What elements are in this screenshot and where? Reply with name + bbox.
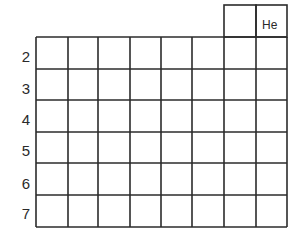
top-cell-empty [224, 5, 256, 37]
period-label-3: 3 [16, 81, 30, 96]
helium-symbol: He [262, 19, 277, 31]
period-label-7: 7 [16, 206, 30, 221]
period-label-2: 2 [16, 49, 30, 64]
period-label-6: 6 [16, 176, 30, 191]
periodic-table-grid [0, 0, 302, 235]
period-label-4: 4 [16, 112, 30, 127]
period-label-5: 5 [16, 143, 30, 158]
